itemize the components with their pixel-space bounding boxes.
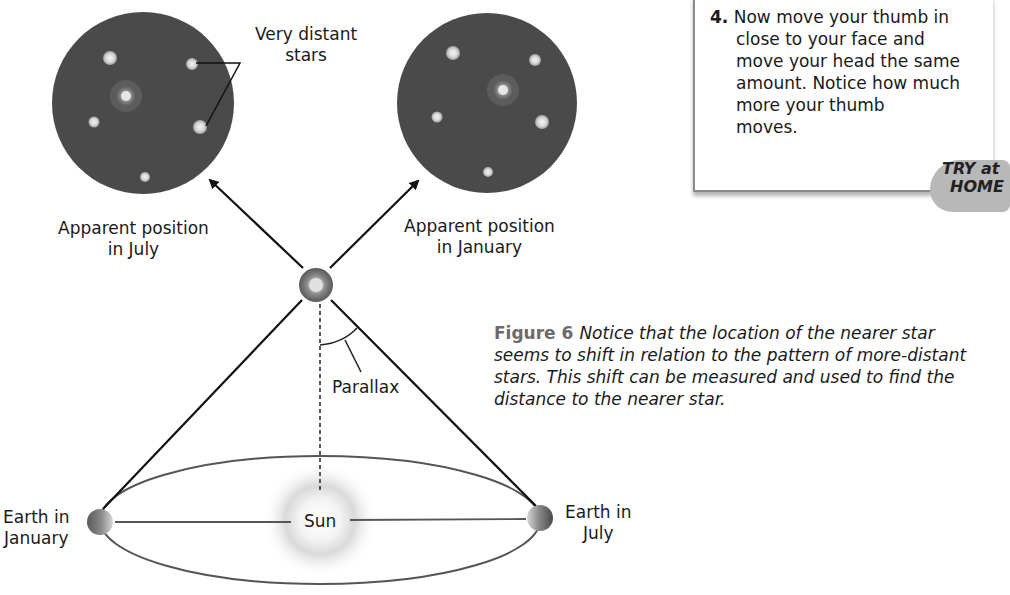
earth-july (527, 505, 553, 531)
label-earth-july: Earth in July (565, 502, 632, 544)
label-apparent-position-january: Apparent position in January (404, 216, 555, 258)
label-parallax: Parallax (332, 377, 399, 398)
label-very-distant-stars: Very distant stars (255, 24, 357, 66)
parallax-angle-arc (320, 328, 361, 372)
near-star (299, 268, 333, 302)
sky-view-january (397, 13, 577, 193)
label-earth-january: Earth in January (3, 507, 70, 549)
figure-caption: Figure 6Notice that the location of the … (494, 322, 982, 410)
figure-label: Figure 6 (494, 323, 573, 343)
try-at-home-badge-text: TRY at HOME (942, 160, 1004, 196)
label-sun: Sun (304, 511, 336, 532)
activity-step-4: 4. Now move your thumb in close to your … (710, 6, 960, 138)
sky-view-july (52, 12, 234, 194)
step-number: 4. (710, 7, 728, 27)
sight-arrows (210, 180, 418, 268)
earth-january (87, 509, 113, 535)
label-apparent-position-july: Apparent position in July (58, 218, 209, 260)
